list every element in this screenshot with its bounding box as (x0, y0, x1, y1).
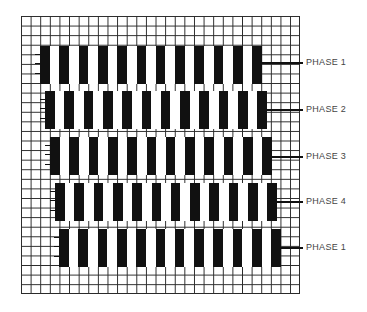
electrode-bar (127, 137, 137, 175)
electrode-bar (69, 137, 79, 175)
electrode-bar (113, 183, 123, 221)
phase-band (59, 229, 281, 267)
electrode-bar (214, 46, 224, 84)
phase-connector-line (267, 109, 303, 111)
electrode-bar (194, 46, 204, 84)
phase-band (40, 46, 262, 84)
electrode-bar (64, 91, 74, 129)
electrode-bar (108, 137, 118, 175)
electrode-bar (233, 46, 243, 84)
electrode-bar (78, 229, 88, 267)
arrow-tick-icon (54, 237, 59, 238)
phase-connector-line (281, 247, 303, 249)
electrode-bar (59, 229, 69, 267)
phase-label: PHASE 1 (306, 57, 346, 67)
electrode-bar (45, 91, 55, 129)
electrode-bar (257, 91, 267, 129)
phase-connector-line (262, 62, 303, 64)
electrode-bar (262, 137, 272, 175)
phase-connector-line (272, 156, 303, 158)
electrode-bar (94, 183, 104, 221)
electrode-bar (190, 183, 200, 221)
phase-label: PHASE 2 (306, 104, 346, 114)
phase-band (45, 91, 267, 129)
electrode-bar (252, 229, 262, 267)
electrode-bar (117, 46, 127, 84)
arrow-tick-icon (50, 210, 55, 211)
electrode-bar (59, 46, 69, 84)
electrode-bar (180, 91, 190, 129)
electrode-bar (204, 137, 214, 175)
electrode-bar (271, 229, 281, 267)
electrode-bar (267, 183, 277, 221)
electrode-bar (40, 46, 50, 84)
electrode-bar (219, 91, 229, 129)
electrode-bar (248, 183, 258, 221)
phase-band (55, 183, 277, 221)
arrow-tick-icon (40, 99, 45, 100)
phase-band (50, 137, 272, 175)
phase-label: PHASE 3 (306, 151, 346, 161)
electrode-bar (213, 229, 223, 267)
electrode-bar (175, 229, 185, 267)
electrode-bar (132, 183, 142, 221)
electrode-bar (122, 91, 132, 129)
arrow-tick-icon (54, 246, 59, 247)
arrow-tick-icon (35, 54, 40, 55)
arrow-tick-icon (45, 145, 50, 146)
arrow-tick-icon (45, 164, 50, 165)
arrow-tick-icon (54, 256, 59, 257)
electrode-bar (152, 183, 162, 221)
arrow-tick-icon (40, 118, 45, 119)
electrode-bar (98, 46, 108, 84)
electrode-bar (156, 229, 166, 267)
electrode-bar (84, 91, 94, 129)
electrode-bar (209, 183, 219, 221)
electrode-bar (171, 183, 181, 221)
arrow-tick-icon (45, 154, 50, 155)
arrow-tick-icon (50, 191, 55, 192)
electrode-bar (142, 91, 152, 129)
electrode-bar (74, 183, 84, 221)
arrow-tick-icon (50, 200, 55, 201)
electrode-bar (161, 91, 171, 129)
phase-label: PHASE 4 (306, 196, 346, 206)
electrode-bar (252, 46, 262, 84)
electrode-bar (50, 137, 60, 175)
electrode-bar (55, 183, 65, 221)
phase-connector-line (277, 201, 303, 203)
electrode-bar (79, 46, 89, 84)
electrode-bar (98, 229, 108, 267)
arrow-tick-icon (35, 73, 40, 74)
electrode-bar (147, 137, 157, 175)
electrode-bar (238, 91, 248, 129)
electrode-bar (224, 137, 234, 175)
arrow-tick-icon (35, 63, 40, 64)
electrode-bar (243, 137, 253, 175)
electrode-bar (89, 137, 99, 175)
electrode-bar (136, 229, 146, 267)
electrode-bar (199, 91, 209, 129)
electrode-bar (166, 137, 176, 175)
arrow-tick-icon (40, 108, 45, 109)
phase-label: PHASE 1 (306, 242, 346, 252)
electrode-bar (175, 46, 185, 84)
electrode-bar (117, 229, 127, 267)
electrode-bar (185, 137, 195, 175)
electrode-bar (156, 46, 166, 84)
electrode-bar (103, 91, 113, 129)
electrode-bar (194, 229, 204, 267)
electrode-bar (229, 183, 239, 221)
electrode-bar (233, 229, 243, 267)
electrode-bar (137, 46, 147, 84)
